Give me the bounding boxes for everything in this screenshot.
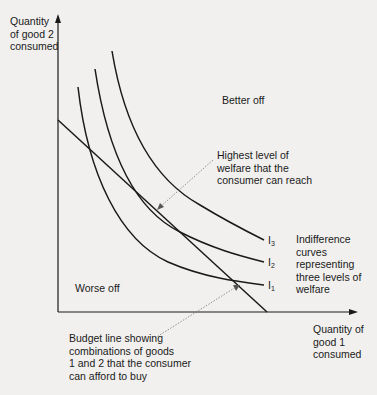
- y-axis-label-line: of good 2: [10, 28, 58, 41]
- annotation-line: consumer can reach: [217, 174, 312, 187]
- better-off-label: Better off: [222, 94, 264, 107]
- x-axis-label-line: consumed: [313, 348, 364, 361]
- curve-label-i2: I2: [268, 256, 275, 269]
- annotation-line: three levels of: [296, 271, 361, 284]
- x-axis-label-line: good 1: [313, 336, 364, 349]
- curve-subscript: 2: [271, 262, 275, 269]
- annotation-line: representing: [296, 258, 361, 271]
- annotation-line: combinations of goods: [69, 345, 191, 358]
- y-axis-label-line: Quantity: [10, 15, 58, 28]
- indifference-curve-i3: [112, 51, 264, 240]
- curve-label-i1: I1: [268, 279, 275, 292]
- x-axis-label-line: Quantity of: [313, 323, 364, 336]
- curve-subscript: 1: [271, 285, 275, 292]
- highest-welfare-pointer: [160, 160, 213, 207]
- x-axis-arrow-icon: [349, 309, 358, 315]
- worse-off-label: Worse off: [75, 282, 120, 295]
- curve-subscript: 3: [271, 240, 275, 247]
- annotation-line: curves: [296, 246, 361, 259]
- y-axis-label-line: consumed: [10, 40, 58, 53]
- budget-line-annotation: Budget line showing combinations of good…: [69, 332, 191, 382]
- annotation-line: Indifference: [296, 233, 361, 246]
- y-axis-label: Quantity of good 2 consumed: [10, 15, 58, 53]
- annotation-line: Highest level of: [217, 149, 312, 162]
- annotation-line: 1 and 2 that the consumer: [69, 357, 191, 370]
- highest-welfare-annotation: Highest level of welfare that the consum…: [217, 149, 312, 187]
- annotation-line: Budget line showing: [69, 332, 191, 345]
- annotation-line: can afford to buy: [69, 370, 191, 383]
- annotation-line: welfare that the: [217, 162, 312, 175]
- annotation-line: welfare: [296, 283, 361, 296]
- curve-label-i3: I3: [268, 234, 275, 247]
- x-axis-label: Quantity of good 1 consumed: [313, 323, 364, 361]
- indifference-curves-annotation: Indifference curves representing three l…: [296, 233, 361, 296]
